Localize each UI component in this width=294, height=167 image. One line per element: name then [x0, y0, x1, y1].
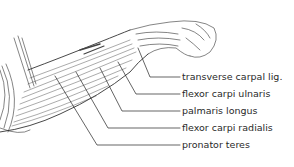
leader-lines — [55, 48, 180, 145]
label-flexor-carpi-radialis: flexor carpi radialis — [182, 122, 273, 134]
muscle-striations — [12, 40, 136, 126]
upper-arm — [0, 36, 36, 133]
label-flexor-carpi-ulnaris: flexor carpi ulnaris — [182, 88, 270, 100]
forearm-outline — [28, 30, 130, 70]
label-palmaris-longus: palmaris longus — [182, 105, 258, 117]
label-transverse-carpal-lig: transverse carpal lig. — [182, 71, 282, 83]
label-pronator-teres: pronator teres — [182, 139, 250, 151]
hand — [130, 21, 216, 57]
